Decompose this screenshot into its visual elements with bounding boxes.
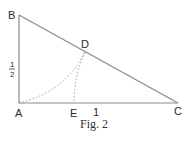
arc-d-to-e (74, 52, 85, 103)
label-c: C (174, 105, 182, 117)
label-length-ab: 1 2 (9, 60, 15, 79)
label-b: B (8, 9, 15, 21)
arc-a-to-d (19, 52, 85, 103)
side-bc-hypotenuse (19, 15, 178, 103)
label-a: A (15, 107, 23, 119)
label-d: D (81, 38, 89, 50)
figure-caption: Fig. 2 (80, 117, 108, 131)
fraction-denominator: 2 (10, 70, 15, 79)
right-triangle-diagram: B D A E 1 C 1 2 Fig. 2 (0, 0, 194, 143)
label-e: E (70, 107, 77, 119)
fraction-numerator: 1 (10, 60, 15, 69)
